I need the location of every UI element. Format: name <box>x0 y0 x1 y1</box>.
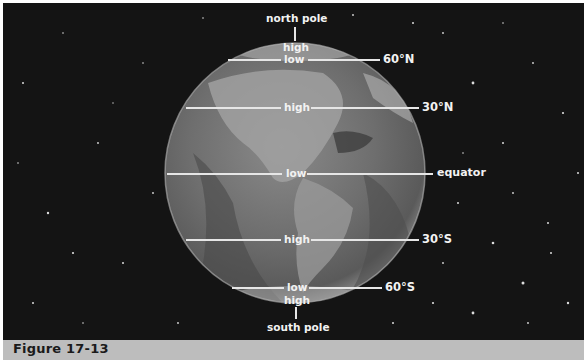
pressure-label-equator: low <box>286 167 307 179</box>
pressure-label-30s: high <box>284 233 310 245</box>
north-pole-label: north pole <box>266 12 327 24</box>
latitude-line-30n-left <box>186 107 281 109</box>
latitude-line-60n-right <box>308 59 380 61</box>
equator-line-left <box>167 173 282 175</box>
north-pole-tick <box>294 27 296 41</box>
pressure-label-60s: low <box>287 281 308 293</box>
figure-caption: Figure 17-13 <box>13 341 109 356</box>
latitude-line-60s-right <box>309 287 382 289</box>
latitude-label-30n: 30°N <box>422 101 453 113</box>
figure-image: north pole high low 60°N high 30°N low e… <box>3 3 584 340</box>
latitude-line-30s-right <box>311 239 419 241</box>
south-pole-label: south pole <box>267 321 330 333</box>
south-pole-tick <box>295 307 297 319</box>
latitude-line-30s-left <box>186 239 281 241</box>
north-polar-high-label: high <box>283 41 309 53</box>
latitude-label-60n: 60°N <box>383 53 414 65</box>
latitude-line-60s-left <box>232 287 284 289</box>
south-polar-high-label: high <box>284 294 310 306</box>
latitude-label-60s: 60°S <box>385 281 415 293</box>
pressure-label-30n: high <box>284 101 310 113</box>
latitude-line-30n-right <box>311 107 419 109</box>
equator-label: equator <box>437 167 486 179</box>
equator-line-right <box>307 173 433 175</box>
latitude-line-60n-left <box>228 59 281 61</box>
caption-bar: Figure 17-13 <box>3 340 584 360</box>
pressure-label-60n: low <box>284 53 305 65</box>
latitude-label-30s: 30°S <box>422 233 452 245</box>
